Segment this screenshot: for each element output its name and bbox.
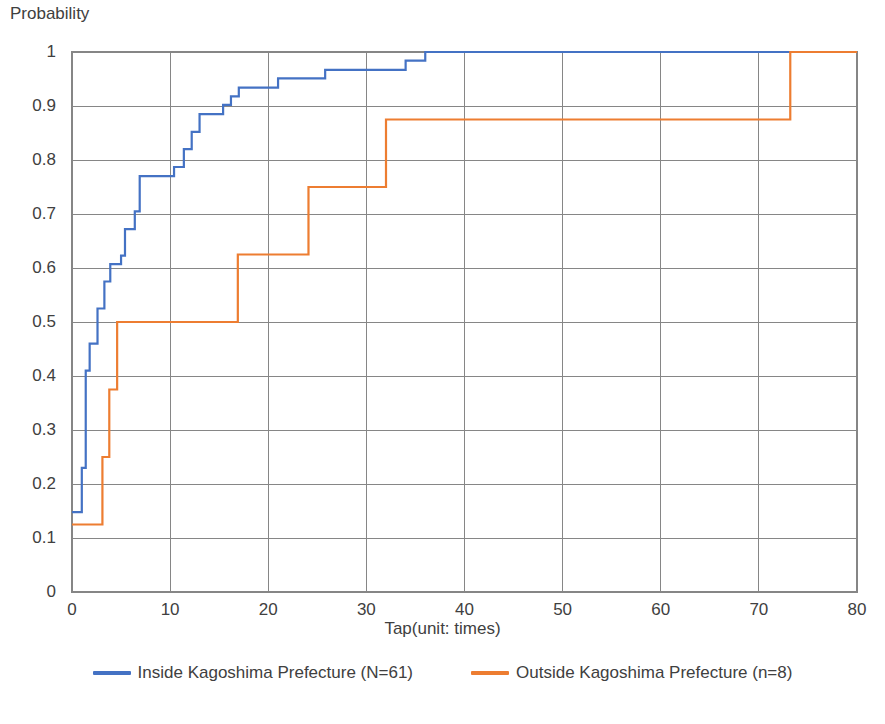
y-tick-label: 0.3 <box>0 420 56 440</box>
x-tick-label: 60 <box>631 600 691 620</box>
chart-legend: Inside Kagoshima Prefecture (N=61)Outsid… <box>0 663 885 683</box>
x-axis-title: Tap(unit: times) <box>0 619 885 639</box>
y-tick-label: 0 <box>0 582 56 602</box>
y-tick-label: 0.8 <box>0 150 56 170</box>
legend-label: Inside Kagoshima Prefecture (N=61) <box>138 663 413 683</box>
series-line-0 <box>72 52 790 512</box>
y-tick-label: 0.2 <box>0 474 56 494</box>
legend-entry-1[interactable]: Outside Kagoshima Prefecture (n=8) <box>471 663 792 683</box>
x-tick-label: 0 <box>42 600 102 620</box>
y-tick-label: 0.7 <box>0 204 56 224</box>
y-tick-label: 0.5 <box>0 312 56 332</box>
y-tick-label: 0.1 <box>0 528 56 548</box>
x-tick-label: 40 <box>435 600 495 620</box>
legend-line-swatch <box>93 671 131 675</box>
x-tick-label: 30 <box>336 600 396 620</box>
y-tick-label: 0.6 <box>0 258 56 278</box>
x-tick-label: 80 <box>827 600 885 620</box>
y-tick-label: 1 <box>0 42 56 62</box>
cumulative-probability-chart: Probability 00.10.20.30.40.50.60.70.80.9… <box>0 0 885 724</box>
legend-entry-0[interactable]: Inside Kagoshima Prefecture (N=61) <box>93 663 413 683</box>
x-tick-label: 70 <box>729 600 789 620</box>
y-tick-label: 0.9 <box>0 96 56 116</box>
y-tick-label: 0.4 <box>0 366 56 386</box>
legend-label: Outside Kagoshima Prefecture (n=8) <box>516 663 792 683</box>
x-tick-label: 20 <box>238 600 298 620</box>
x-tick-label: 50 <box>533 600 593 620</box>
legend-line-swatch <box>471 671 509 675</box>
x-tick-label: 10 <box>140 600 200 620</box>
